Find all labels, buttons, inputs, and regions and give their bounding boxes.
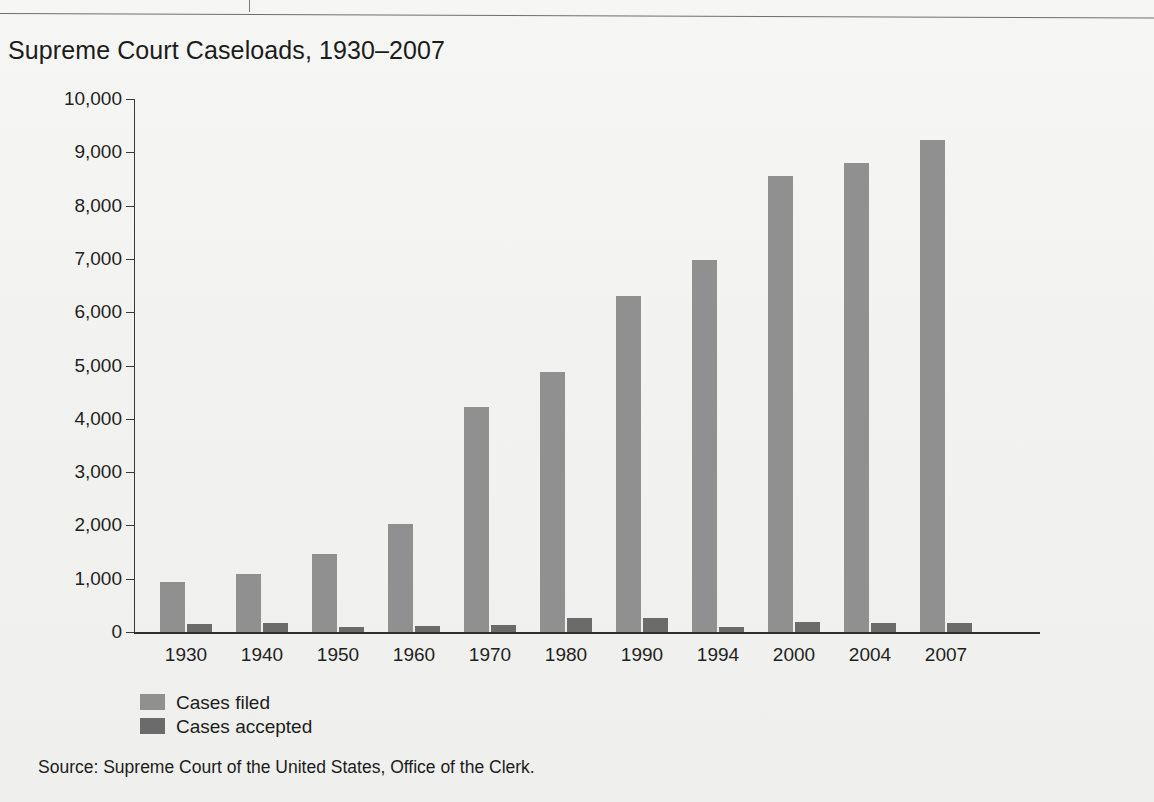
- bar-group: [540, 99, 592, 632]
- x-axis-label: 1970: [452, 644, 528, 666]
- page-title: Supreme Court Caseloads, 1930–2007: [8, 36, 445, 65]
- bar-group: [616, 99, 668, 632]
- bar-group: [920, 99, 972, 632]
- x-axis-label: 2007: [908, 644, 984, 666]
- bar-group: [236, 99, 288, 632]
- legend-label-cases-accepted: Cases accepted: [176, 717, 312, 736]
- bar-group: [692, 99, 744, 632]
- y-axis-tick: [126, 312, 134, 313]
- bar-chart: 10,0009,0008,0007,0006,0005,0004,0003,00…: [0, 80, 1154, 660]
- bar-cases-accepted: [719, 627, 744, 632]
- x-axis-label: 1930: [148, 644, 224, 666]
- bar-cases-accepted: [263, 623, 288, 632]
- bar-group: [464, 99, 516, 632]
- y-axis-tick: [126, 99, 134, 100]
- bar-cases-filed: [236, 574, 261, 632]
- y-axis-tick: [126, 206, 134, 207]
- page-header-tick: [249, 0, 250, 12]
- y-axis-label: 6,000: [74, 301, 122, 323]
- bar-group: [312, 99, 364, 632]
- bar-cases-filed: [768, 176, 793, 632]
- y-axis-label: 9,000: [74, 141, 122, 163]
- bar-cases-accepted: [947, 623, 972, 632]
- y-axis-tick: [126, 632, 134, 633]
- x-axis-line: [134, 632, 1040, 634]
- bar-cases-accepted: [491, 625, 516, 632]
- bar-cases-filed: [616, 296, 641, 632]
- legend-item-cases-filed: Cases filed: [140, 691, 312, 713]
- y-axis-line: [134, 99, 135, 632]
- legend-swatch-cases-filed: [140, 694, 165, 710]
- bar-cases-accepted: [795, 622, 820, 632]
- bar-cases-filed: [692, 260, 717, 632]
- x-axis-label: 2000: [756, 644, 832, 666]
- bar-group: [768, 99, 820, 632]
- bar-cases-filed: [844, 163, 869, 632]
- bar-cases-accepted: [567, 618, 592, 632]
- y-axis-label: 2,000: [74, 514, 122, 536]
- bar-group: [160, 99, 212, 632]
- bar-cases-filed: [540, 372, 565, 632]
- y-axis-tick: [126, 259, 134, 260]
- bar-cases-accepted: [871, 623, 896, 632]
- y-axis-label: 5,000: [74, 355, 122, 377]
- x-axis-label: 1994: [680, 644, 756, 666]
- y-axis-label: 3,000: [74, 461, 122, 483]
- bar-cases-accepted: [415, 626, 440, 632]
- y-axis-tick: [126, 419, 134, 420]
- bar-group: [388, 99, 440, 632]
- x-axis-label: 2004: [832, 644, 908, 666]
- y-axis-label: 10,000: [64, 88, 122, 110]
- x-axis-label: 1950: [300, 644, 376, 666]
- x-axis-label: 1990: [604, 644, 680, 666]
- y-axis-tick: [126, 152, 134, 153]
- y-axis-tick: [126, 579, 134, 580]
- y-axis-label: 4,000: [74, 408, 122, 430]
- bar-group: [844, 99, 896, 632]
- bar-cases-filed: [312, 554, 337, 632]
- y-axis-tick: [126, 366, 134, 367]
- x-axis-label: 1960: [376, 644, 452, 666]
- y-axis-tick: [126, 525, 134, 526]
- legend-swatch-cases-accepted: [140, 718, 165, 734]
- plot-area: 10,0009,0008,0007,0006,0005,0004,0003,00…: [134, 99, 1040, 632]
- bar-cases-filed: [464, 407, 489, 632]
- chart-legend: Cases filed Cases accepted: [140, 691, 312, 739]
- legend-label-cases-filed: Cases filed: [176, 693, 270, 712]
- y-axis-label: 0: [111, 621, 122, 643]
- legend-item-cases-accepted: Cases accepted: [140, 715, 312, 737]
- x-axis-label: 1980: [528, 644, 604, 666]
- figure-source: Source: Supreme Court of the United Stat…: [38, 757, 535, 778]
- bar-cases-accepted: [643, 618, 668, 632]
- y-axis-label: 1,000: [74, 568, 122, 590]
- bar-cases-filed: [160, 582, 185, 632]
- y-axis-label: 8,000: [74, 195, 122, 217]
- y-axis-tick: [126, 472, 134, 473]
- y-axis-label: 7,000: [74, 248, 122, 270]
- x-axis-label: 1940: [224, 644, 300, 666]
- bar-cases-filed: [388, 524, 413, 632]
- bar-cases-filed: [920, 140, 945, 632]
- bar-cases-accepted: [187, 624, 212, 632]
- bar-cases-accepted: [339, 627, 364, 632]
